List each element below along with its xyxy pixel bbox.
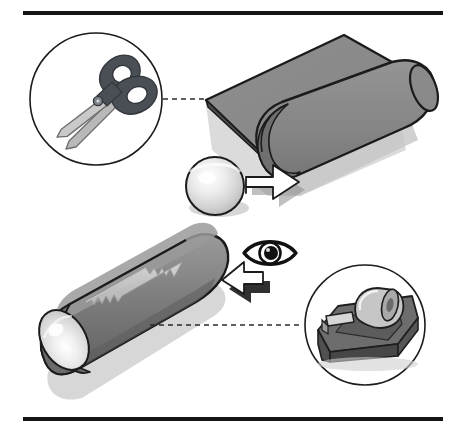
top-panel	[30, 33, 443, 217]
scissors-callout	[30, 33, 162, 165]
view-direction-arrow	[222, 262, 270, 303]
tape-dispenser-callout	[305, 265, 425, 385]
instruction-diagram	[0, 0, 463, 435]
bottom-panel	[29, 223, 425, 400]
illustration-canvas	[0, 0, 463, 435]
eye-symbol	[244, 242, 296, 265]
